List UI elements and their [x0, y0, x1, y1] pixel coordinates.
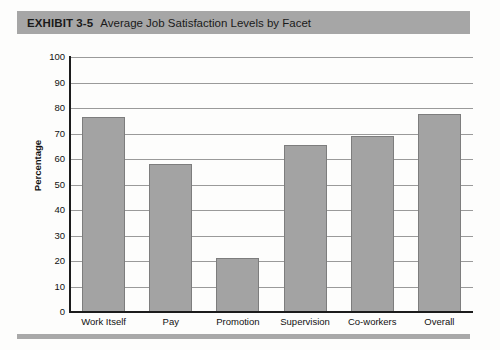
y-tick-label: 40 [35, 205, 65, 215]
gridline [70, 287, 473, 288]
bar [82, 117, 125, 312]
gridline [70, 159, 473, 160]
gridline [70, 108, 473, 109]
x-tick-label: Overall [379, 316, 499, 327]
footer-band [17, 334, 470, 339]
gridline [70, 57, 473, 58]
y-tick-label: 90 [35, 78, 65, 88]
gridline [70, 134, 473, 135]
gridline [70, 210, 473, 211]
y-tick-label: 50 [35, 180, 65, 190]
bar [149, 164, 192, 312]
bar-chart: Percentage 0102030405060708090100 Work I… [0, 0, 500, 350]
y-axis-tick-labels: 0102030405060708090100 [33, 0, 65, 350]
bar [418, 114, 461, 312]
bar [216, 258, 259, 312]
y-tick-label: 20 [35, 256, 65, 266]
gridline [70, 236, 473, 237]
x-axis-line [69, 311, 473, 313]
bar [351, 136, 394, 312]
gridline [70, 83, 473, 84]
y-axis-line [69, 56, 71, 313]
y-tick-label: 70 [35, 129, 65, 139]
y-tick-label: 100 [35, 52, 65, 62]
y-tick-label: 60 [35, 154, 65, 164]
bar [284, 145, 327, 312]
exhibit-figure: EXHIBIT 3-5 Average Job Satisfaction Lev… [0, 0, 500, 350]
y-tick-label: 30 [35, 231, 65, 241]
y-tick-label: 10 [35, 282, 65, 292]
gridline [70, 185, 473, 186]
plot-area [70, 57, 473, 312]
gridline [70, 261, 473, 262]
y-tick-label: 80 [35, 103, 65, 113]
